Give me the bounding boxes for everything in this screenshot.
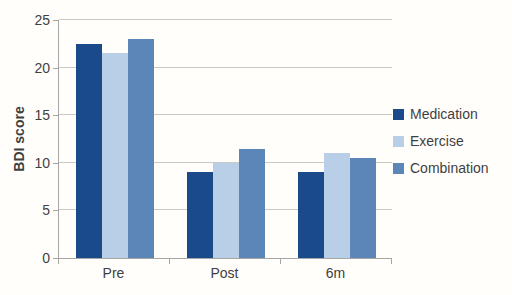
legend-swatch-exercise <box>393 136 404 147</box>
legend-swatch-medication <box>393 109 404 120</box>
bar-exercise-pre <box>102 53 128 258</box>
bar-chart: BDI score MedicationExerciseCombination … <box>0 0 512 295</box>
y-tick-label-20: 20 <box>20 59 50 77</box>
y-tick-label-5: 5 <box>20 201 50 219</box>
legend-label-exercise: Exercise <box>410 133 464 149</box>
legend-item-medication: Medication <box>393 106 489 122</box>
y-axis-title: BDI score <box>11 75 29 203</box>
y-tick-label-15: 15 <box>20 106 50 124</box>
legend-label-medication: Medication <box>410 106 478 122</box>
x-axis-tick-1 <box>169 259 170 264</box>
legend-item-combination: Combination <box>393 160 489 176</box>
bar-group-6m <box>281 20 392 258</box>
bar-exercise-6m <box>324 153 350 258</box>
y-tick-label-25: 25 <box>20 11 50 29</box>
y-axis-tick-5 <box>53 210 58 211</box>
bar-combination-6m <box>350 158 376 258</box>
legend-label-combination: Combination <box>410 160 489 176</box>
x-axis-tick-2 <box>280 259 281 264</box>
y-axis-tick-20 <box>53 68 58 69</box>
y-axis-tick-10 <box>53 163 58 164</box>
bar-medication-6m <box>298 172 324 258</box>
bar-combination-pre <box>128 39 154 258</box>
legend: MedicationExerciseCombination <box>393 106 489 176</box>
y-tick-label-0: 0 <box>20 249 50 267</box>
legend-swatch-combination <box>393 163 404 174</box>
y-axis-tick-25 <box>53 20 58 21</box>
bar-medication-pre <box>76 44 102 258</box>
bar-combination-post <box>239 149 265 258</box>
bar-exercise-post <box>213 163 239 258</box>
bar-group-pre <box>59 20 170 258</box>
x-category-label-post: Post <box>169 265 280 281</box>
legend-item-exercise: Exercise <box>393 133 489 149</box>
bar-group-post <box>170 20 281 258</box>
x-category-label-6m: 6m <box>280 265 391 281</box>
plot-area <box>58 20 392 259</box>
x-category-label-pre: Pre <box>58 265 169 281</box>
x-axis-tick-0 <box>58 259 59 264</box>
y-tick-label-10: 10 <box>20 154 50 172</box>
x-axis-tick-end <box>391 259 392 264</box>
bar-medication-post <box>187 172 213 258</box>
y-axis-tick-15 <box>53 115 58 116</box>
